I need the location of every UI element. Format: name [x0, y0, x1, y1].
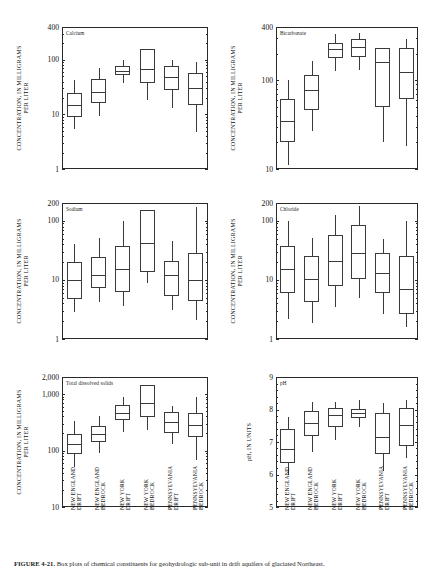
- y-tick-minor-right: [416, 234, 418, 235]
- y-tick-minor-right: [206, 65, 208, 66]
- y-tick-label: 10: [243, 165, 273, 174]
- y-tick-minor: [62, 303, 64, 304]
- whisker-lower: [359, 279, 360, 297]
- y-tick-major: [276, 410, 279, 411]
- box-plot-box: [304, 75, 319, 110]
- y-tick-minor: [62, 43, 64, 44]
- y-tick-minor-right: [206, 72, 208, 73]
- y-tick-minor: [276, 127, 278, 128]
- y-tick-minor: [62, 234, 64, 235]
- box-plot-box: [188, 253, 203, 301]
- x-axis-category-label: PENNSYLVANIADRIFT: [378, 466, 390, 510]
- whisker-lower: [335, 58, 336, 71]
- whisker-lower: [74, 454, 75, 467]
- box-plot-box: [399, 408, 414, 446]
- y-tick-minor-right: [206, 303, 208, 304]
- y-tick-minor-right: [416, 107, 418, 108]
- panel-title-chloride: Chloride: [280, 206, 299, 212]
- y-tick-minor-right: [416, 468, 418, 469]
- box-plot-median: [399, 72, 414, 73]
- whisker-lower: [383, 293, 384, 315]
- y-tick-minor-right: [206, 76, 208, 77]
- y-tick-minor-right: [416, 283, 418, 284]
- y-tick-minor: [62, 399, 64, 400]
- y-tick-major-right: [205, 114, 208, 115]
- box-plot-median: [140, 69, 155, 70]
- y-tick-label: 200: [243, 199, 273, 208]
- plot-frame-sodium: [62, 203, 208, 339]
- panel-title-sodium: Sodium: [66, 206, 83, 212]
- y-tick-label: 400: [243, 23, 273, 32]
- y-tick-minor: [276, 289, 278, 290]
- y-tick-minor-right: [206, 239, 208, 240]
- box-plot-median: [164, 77, 179, 78]
- y-tick-minor: [276, 203, 278, 204]
- y-tick-minor-right: [416, 289, 418, 290]
- y-tick-minor: [62, 72, 64, 73]
- box-plot-median: [67, 280, 82, 281]
- y-tick-label: 10: [29, 275, 59, 284]
- y-tick-minor-right: [206, 407, 208, 408]
- whisker-lower: [172, 90, 173, 108]
- whisker-lower: [196, 437, 197, 460]
- y-tick-label: 7: [243, 438, 273, 447]
- y-tick-minor: [62, 34, 64, 35]
- box-plot-median: [188, 280, 203, 281]
- whisker-lower: [123, 420, 124, 432]
- box-plot-box: [280, 429, 295, 463]
- whisker-upper: [99, 416, 100, 426]
- y-tick-label: 10: [243, 275, 273, 284]
- whisker-upper: [406, 39, 407, 48]
- y-tick-minor: [62, 377, 64, 378]
- whisker-upper: [335, 215, 336, 235]
- panel-title-calcium: Calcium: [66, 30, 84, 36]
- figure-container: CalciumCONCENTRATION, IN MILLIGRAMSPER L…: [0, 0, 429, 573]
- y-tick-minor: [276, 107, 278, 108]
- whisker-lower: [335, 286, 336, 307]
- y-tick-minor: [62, 203, 64, 204]
- y-tick-minor-right: [416, 461, 418, 462]
- whisker-upper: [196, 62, 197, 73]
- y-tick-minor: [276, 416, 278, 417]
- y-tick-minor-right: [416, 54, 418, 55]
- y-tick-major-right: [415, 169, 418, 170]
- y-tick-minor: [62, 223, 64, 224]
- whisker-upper: [383, 403, 384, 413]
- box-plot-median: [304, 90, 319, 91]
- y-tick-minor: [62, 397, 64, 398]
- y-tick-major-right: [205, 507, 208, 508]
- box-plot-median: [115, 413, 130, 414]
- box-plot-median: [399, 289, 414, 290]
- y-tick-minor: [276, 390, 278, 391]
- y-tick-minor: [62, 143, 64, 144]
- y-tick-minor: [276, 422, 278, 423]
- y-tick-minor-right: [416, 100, 418, 101]
- y-tick-major: [62, 60, 65, 61]
- y-tick-major: [62, 339, 65, 340]
- y-tick-label: 1,000: [29, 390, 59, 399]
- y-tick-minor-right: [416, 89, 418, 90]
- y-tick-minor-right: [416, 384, 418, 385]
- box-plot-median: [280, 269, 295, 270]
- whisker-upper: [312, 61, 313, 75]
- y-tick-minor: [276, 303, 278, 304]
- y-tick-minor-right: [206, 252, 208, 253]
- y-tick-minor: [62, 117, 64, 118]
- y-tick-minor-right: [206, 68, 208, 69]
- y-tick-minor: [62, 27, 64, 28]
- y-tick-minor-right: [416, 429, 418, 430]
- plot-frame-ph: [276, 377, 418, 507]
- y-tick-minor: [62, 311, 64, 312]
- whisker-lower: [406, 446, 407, 458]
- y-tick-minor: [276, 252, 278, 253]
- y-tick-minor-right: [416, 397, 418, 398]
- whisker-lower: [147, 417, 148, 430]
- box-plot-median: [280, 449, 295, 450]
- y-tick-minor-right: [206, 286, 208, 287]
- y-tick-major: [276, 377, 279, 378]
- y-tick-minor: [62, 98, 64, 99]
- y-tick-minor: [62, 65, 64, 66]
- whisker-upper: [99, 238, 100, 258]
- y-tick-major: [62, 451, 65, 452]
- box-plot-median: [328, 261, 343, 262]
